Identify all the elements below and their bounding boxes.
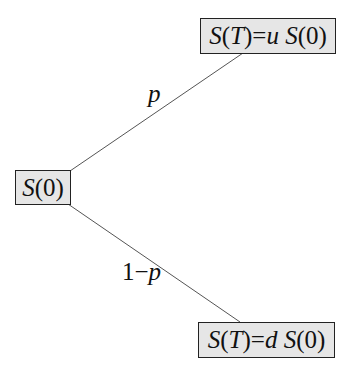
- down-factor: d: [265, 326, 278, 354]
- prob-p: p: [149, 258, 162, 285]
- up-factor: u: [266, 22, 279, 50]
- node-down-state: S(T)=d S(0): [198, 322, 335, 358]
- symbol-T: T: [229, 326, 243, 354]
- symbol-S: S: [284, 326, 297, 354]
- edge-up: [70, 53, 243, 171]
- paren: (: [222, 22, 230, 50]
- symbol-S: S: [208, 326, 221, 354]
- paren: ): [242, 326, 250, 354]
- paren: ): [244, 22, 252, 50]
- arg-zero: (0): [298, 22, 327, 50]
- node-root: S(0): [15, 170, 71, 205]
- arg-zero: (0): [296, 326, 325, 354]
- symbol-S: S: [22, 174, 35, 202]
- edge-label-down-probability: 1−p: [122, 258, 161, 286]
- node-up-state: S(T)=u S(0): [200, 18, 336, 54]
- symbol-T: T: [230, 22, 244, 50]
- one-minus: 1−: [122, 258, 149, 285]
- equals: =: [251, 326, 265, 354]
- paren: (: [220, 326, 228, 354]
- symbol-S: S: [209, 22, 222, 50]
- edge-label-up-probability: p: [148, 80, 161, 108]
- equals: =: [252, 22, 266, 50]
- arg-zero: (0): [35, 174, 64, 202]
- prob-p: p: [148, 80, 161, 107]
- symbol-S: S: [285, 22, 298, 50]
